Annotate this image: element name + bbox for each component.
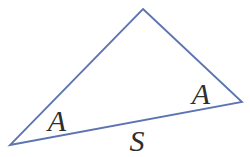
triangle-canvas xyxy=(0,0,250,157)
angle-label-right: A xyxy=(192,79,210,109)
geometry-figure: A A S xyxy=(0,0,250,157)
angle-label-left: A xyxy=(48,106,66,136)
side-label-bottom: S xyxy=(130,126,145,156)
